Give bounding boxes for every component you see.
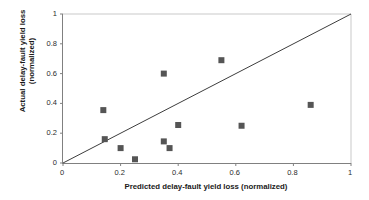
x-tick-label: 0 [60,169,64,177]
y-tick-label: 0 [30,159,57,167]
x-tick-label: 0.4 [172,169,182,177]
y-tick-label: 0.2 [30,129,57,137]
data-point-marker [132,156,138,162]
data-point-marker [118,145,124,151]
plot-surface [63,14,351,163]
y-tick-label: 0.8 [30,40,57,48]
y-tick-label: 0.4 [30,99,57,107]
data-point-marker [100,107,106,113]
data-point-marker [167,145,173,151]
y-axis-title-line1: Actual delay-fault yield loss [18,0,27,136]
x-tick-label: 0.6 [230,169,240,177]
data-point-marker [102,136,108,142]
data-point-marker [308,102,314,108]
x-tick-label: 0.8 [287,169,297,177]
data-layer [63,14,351,163]
x-tick-label: 1 [348,169,352,177]
data-point-marker [218,57,224,63]
scatter-chart: Actual delay-fault yield loss (normalize… [0,0,369,200]
data-point-marker [239,123,245,129]
y-tick-label: 0.6 [30,70,57,78]
data-point-marker [175,122,181,128]
y-axis-title: Actual delay-fault yield loss (normalize… [18,0,36,136]
y-axis-title-line2: (normalized) [27,0,36,136]
x-tick-label: 0.2 [114,169,124,177]
y-tick-label: 1 [30,10,57,18]
data-point-marker [161,71,167,77]
data-point-marker [161,138,167,144]
x-axis-title: Predicted delay-fault yield loss (normal… [62,182,350,191]
plot-area [62,14,351,164]
